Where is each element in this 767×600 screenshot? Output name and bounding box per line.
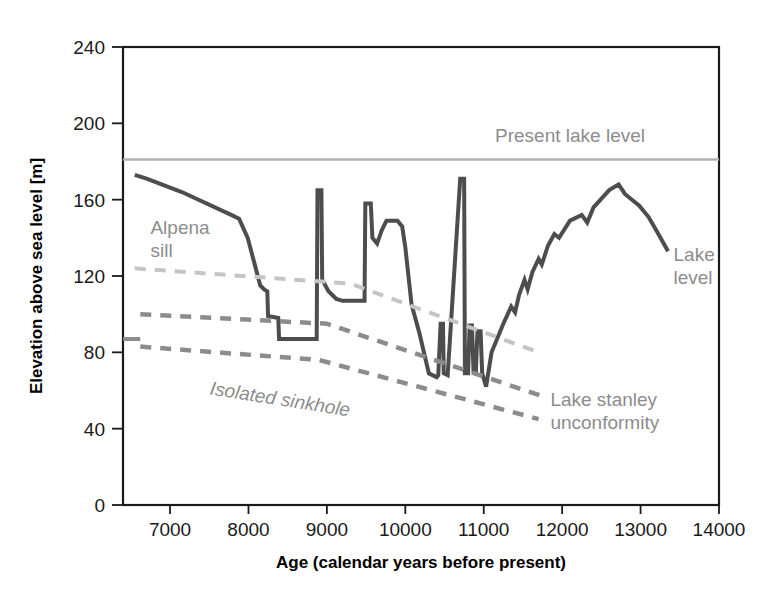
y-tick-label: 40 [84,419,105,440]
annotation-present-lake-level: Present lake level [495,125,645,146]
chart-background [0,0,767,600]
lake-level-chart: 7000800090001000011000120001300014000 04… [0,0,767,600]
y-tick-label: 240 [73,37,105,58]
x-tick-label: 8000 [227,519,269,540]
annotation-text: Present lake level [495,125,645,146]
x-tick-label: 14000 [693,519,746,540]
y-tick-label: 160 [73,190,105,211]
x-tick-label: 13000 [614,519,667,540]
annotation-text: Alpena [150,217,210,238]
y-tick-label: 200 [73,113,105,134]
annotation-text: unconformity [550,412,659,433]
x-tick-label: 7000 [149,519,191,540]
y-axis-title: Elevation above sea level [m] [27,158,46,394]
chart-figure: 7000800090001000011000120001300014000 04… [0,0,767,600]
x-tick-label: 9000 [306,519,348,540]
annotation-text: Lake [674,244,715,265]
y-tick-label: 80 [84,342,105,363]
y-tick-label: 0 [94,495,105,516]
annotation-text: Lake stanley [550,389,657,410]
annotation-text: sill [150,240,172,261]
x-tick-label: 12000 [536,519,589,540]
x-tick-label: 10000 [379,519,432,540]
x-tick-label: 11000 [458,519,509,540]
y-tick-label: 120 [73,266,105,287]
x-axis-title: Age (calendar years before present) [276,553,566,572]
annotation-text: level [674,267,713,288]
